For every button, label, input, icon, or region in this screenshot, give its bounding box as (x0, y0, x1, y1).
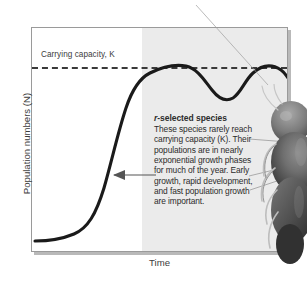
callout-body-line: growth, rapid development, (154, 176, 252, 186)
callout-body-line: exponential growth phases (154, 155, 252, 165)
callout-arrow-icon (100, 168, 156, 182)
callout-title: r-selected species (154, 113, 252, 123)
callout-body-line: for much of the year. Early (154, 165, 252, 175)
top-caption-fragment (168, 0, 307, 8)
callout-textbox: r-selected species These species rarely … (154, 113, 252, 207)
callout-title-rest: -selected species (157, 113, 227, 123)
insect-photograph (258, 84, 307, 282)
callout-body-line: and fast population growth (154, 186, 252, 196)
callout-body-line: These species rarely reach (154, 124, 252, 134)
x-axis-label: Time (31, 257, 288, 268)
callout-body-line: are important. (154, 196, 252, 206)
callout-body-line: carrying capacity (K). Their (154, 134, 252, 144)
callout-body: These species rarely reach carrying capa… (154, 124, 252, 207)
callout-body-line: populations are in nearly (154, 145, 252, 155)
y-axis-label: Population numbers (N) (21, 54, 32, 234)
